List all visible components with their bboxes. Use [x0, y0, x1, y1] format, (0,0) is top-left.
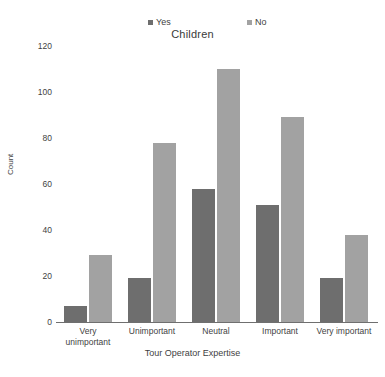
y-tick-label: 120 [18, 42, 52, 51]
bar-no [217, 69, 240, 322]
legend-entry-no: No [247, 18, 267, 27]
legend-swatch-no [247, 20, 252, 25]
plot-area [56, 46, 376, 322]
bar-yes [192, 189, 215, 322]
bar-yes [64, 306, 87, 322]
y-tick-label: 40 [18, 226, 52, 235]
chart-title: Children [0, 28, 385, 41]
x-axis-title: Tour Operator Expertise [0, 348, 385, 358]
bar-yes [128, 278, 151, 322]
legend-entry-yes: Yes [148, 18, 171, 27]
bar-group [192, 46, 240, 322]
x-tick-line: Very important [304, 326, 384, 337]
bar-group [320, 46, 368, 322]
bar-chart: Yes No Children Count 020406080100120 Ve… [0, 0, 385, 377]
y-tick-label: 60 [18, 180, 52, 189]
bar-no [345, 235, 368, 322]
y-tick-label: 80 [18, 134, 52, 143]
bar-group [64, 46, 112, 322]
y-axis-ticks: 020406080100120 [14, 0, 52, 377]
bar-no [89, 255, 112, 322]
y-tick-label: 100 [18, 88, 52, 97]
legend-label-yes: Yes [156, 18, 171, 27]
y-tick-label: 20 [18, 272, 52, 281]
y-tick-label: 0 [18, 318, 52, 327]
bar-yes [320, 278, 343, 322]
legend-swatch-yes [148, 20, 153, 25]
x-axis-line [56, 322, 378, 323]
bar-yes [256, 205, 279, 322]
bar-no [281, 117, 304, 322]
legend-label-no: No [255, 18, 267, 27]
x-tick-label: Very important [304, 326, 384, 337]
bar-group [128, 46, 176, 322]
x-tick-line: unimportant [48, 337, 128, 348]
bar-group [256, 46, 304, 322]
bar-no [153, 143, 176, 322]
